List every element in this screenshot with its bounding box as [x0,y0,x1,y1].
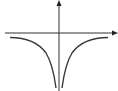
function-graph [0,0,118,91]
y-axis-arrow-icon [57,0,62,6]
x-axis-arrow-icon [112,31,118,36]
curve-left-branch [10,38,56,89]
curve-right-branch [62,38,108,89]
